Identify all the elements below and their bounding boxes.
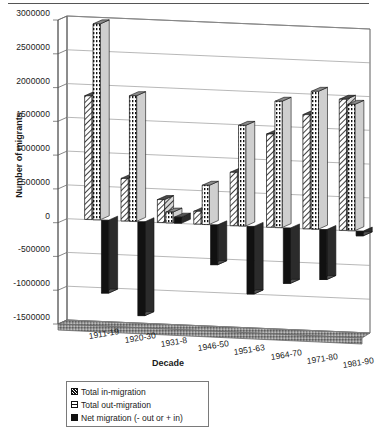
legend-label-out-migration: Total out-migration (81, 400, 151, 410)
solid-black-swatch-icon (71, 414, 78, 421)
y-tick-label: 3000000 (0, 8, 50, 18)
y-tick-label: -1000000 (0, 278, 50, 288)
legend-item-in-migration: Total in-migration (71, 385, 204, 398)
legend-label-in-migration: Total in-migration (81, 387, 146, 397)
y-tick-label: 1500000 (0, 109, 50, 119)
y-tick-label: 500000 (0, 177, 50, 187)
legend-item-out-migration: Total out-migration (71, 398, 204, 411)
y-tick-label: 2000000 (0, 76, 50, 86)
y-tick-label: -500000 (0, 244, 50, 254)
chart-page: 3000000250000020000001500000100000050000… (0, 0, 377, 431)
migration-bar-chart: 3000000250000020000001500000100000050000… (0, 0, 377, 431)
legend-label-net-migration: Net migration (- out or + in) (81, 413, 183, 423)
chart-canvas (0, 0, 377, 431)
y-tick-label: 1000000 (0, 143, 50, 153)
y-tick-label: 0 (0, 211, 50, 221)
x-axis-title: Decade (152, 358, 184, 368)
hatched-diagonal-swatch-icon (71, 388, 78, 395)
y-tick-label: 2500000 (0, 42, 50, 52)
y-axis-title: Number of migrants (14, 100, 24, 210)
chart-legend: Total in-migration Total out-migration N… (66, 381, 209, 427)
legend-item-net-migration: Net migration (- out or + in) (71, 411, 204, 424)
dotted-white-swatch-icon (71, 401, 78, 408)
y-tick-label: -1500000 (0, 312, 50, 322)
